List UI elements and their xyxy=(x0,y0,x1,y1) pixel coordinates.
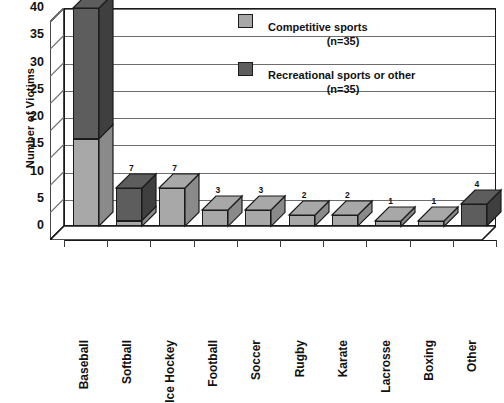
bar-column[interactable] xyxy=(159,188,185,226)
bar-column[interactable] xyxy=(73,8,99,226)
bar-group[interactable]: 7 xyxy=(159,8,185,226)
y-axis-tick-labels: 4035302520151050 xyxy=(10,0,44,345)
bar-value-label: 1 xyxy=(431,196,436,206)
bar-segment-competitive[interactable] xyxy=(73,139,99,226)
bar-group[interactable]: 7 xyxy=(116,8,142,226)
legend-label: Competitive sports xyxy=(268,21,368,33)
y-tick-25: 25 xyxy=(18,83,44,96)
x-label-karate: Karate xyxy=(336,340,350,377)
bar-column[interactable] xyxy=(202,210,228,226)
y-tick-35: 35 xyxy=(18,28,44,41)
x-tick xyxy=(496,240,497,247)
bar-value-label: 2 xyxy=(345,190,350,200)
x-label-ice-hockey: Ice Hockey xyxy=(163,340,177,403)
chart-legend: Competitive sports(n=35)Recreational spo… xyxy=(238,14,488,100)
bar-segment-competitive[interactable] xyxy=(289,215,315,226)
x-tick xyxy=(150,240,151,247)
x-tick xyxy=(237,240,238,247)
bar-column[interactable] xyxy=(245,210,271,226)
bar-segment-competitive[interactable] xyxy=(116,221,142,226)
x-label-boxing: Boxing xyxy=(422,340,436,381)
legend-label: Recreational sports or other xyxy=(268,69,415,81)
bar-value-label: 1 xyxy=(388,196,393,206)
bar-column[interactable] xyxy=(116,188,142,226)
x-label-softball: Softball xyxy=(120,340,134,384)
x-tick xyxy=(410,240,411,247)
y-tick-20: 20 xyxy=(18,110,44,123)
legend-swatch-dark xyxy=(238,62,253,76)
y-tick-10: 10 xyxy=(18,165,44,178)
bar-value-label: 7 xyxy=(129,163,134,173)
bar-column[interactable] xyxy=(289,215,315,226)
y-tick-0: 0 xyxy=(18,219,44,232)
bar-column[interactable] xyxy=(461,204,487,226)
legend-sublabel: (n=35) xyxy=(268,35,418,47)
bar-value-label: 2 xyxy=(302,190,307,200)
bar-group[interactable]: 3 xyxy=(202,8,228,226)
x-tick xyxy=(107,240,108,247)
x-tick xyxy=(366,240,367,247)
y-tick-30: 30 xyxy=(18,56,44,69)
y-tick-5: 5 xyxy=(18,192,44,205)
bar-value-label: 4 xyxy=(475,179,480,189)
bar-segment-recreational[interactable] xyxy=(461,204,487,226)
legend-swatch-light xyxy=(238,14,253,28)
x-label-football: Football xyxy=(206,340,220,387)
bar-segment-competitive[interactable] xyxy=(332,215,358,226)
bar-column[interactable] xyxy=(418,221,444,226)
x-tick xyxy=(453,240,454,247)
bar-segment-competitive[interactable] xyxy=(375,221,401,226)
x-label-baseball: Baseball xyxy=(77,340,91,389)
x-tick xyxy=(64,240,65,247)
bar-column[interactable] xyxy=(332,215,358,226)
bar-segment-competitive[interactable] xyxy=(202,210,228,226)
bar-segment-competitive[interactable] xyxy=(418,221,444,226)
bar-segment-recreational[interactable] xyxy=(73,8,99,139)
x-axis-tick-labels: BaseballSoftballIce HockeyFootballSoccer… xyxy=(50,252,496,344)
x-label-soccer: Soccer xyxy=(249,340,263,380)
x-tick xyxy=(280,240,281,247)
bar-segment-competitive[interactable] xyxy=(159,188,185,226)
bar-segment-recreational[interactable] xyxy=(116,188,142,221)
bar-value-label: 3 xyxy=(215,185,220,195)
y-tick-15: 15 xyxy=(18,137,44,150)
x-tick xyxy=(194,240,195,247)
x-tick xyxy=(323,240,324,247)
bar-segment-competitive[interactable] xyxy=(245,210,271,226)
bar-column[interactable] xyxy=(375,221,401,226)
y-tick-40: 40 xyxy=(18,1,44,14)
bar-value-label: 7 xyxy=(172,163,177,173)
bar-value-label: 3 xyxy=(259,185,264,195)
x-label-other: Other xyxy=(465,340,479,372)
x-label-lacrosse: Lacrosse xyxy=(379,340,393,393)
bar-group[interactable]: 40 xyxy=(73,8,99,226)
x-label-rugby: Rugby xyxy=(293,340,307,377)
legend-sublabel: (n=35) xyxy=(268,83,418,95)
